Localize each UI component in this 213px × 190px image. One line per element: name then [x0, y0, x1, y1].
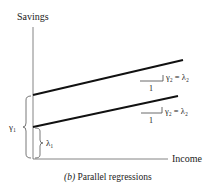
- upper-slope-run-label: 1: [149, 84, 153, 93]
- upper-slope-label: γ₂ = λ₂: [165, 72, 189, 82]
- caption-text: Parallel regressions: [75, 172, 152, 182]
- gamma1-label: γ₁: [8, 122, 16, 132]
- lower-slope-label: γ₂ = λ₂: [164, 106, 188, 116]
- parallel-regressions-diagram: Savings Income 1 γ₂ = λ₂ 1 γ₂ = λ₂ γ₁ λ₁…: [0, 0, 213, 190]
- x-axis-label: Income: [172, 153, 203, 164]
- upper-slope-triangle: [140, 75, 163, 81]
- upper-regression-line: [33, 60, 183, 95]
- lambda1-brace: [35, 128, 43, 158]
- lower-regression-line: [33, 96, 178, 127]
- gamma1-brace: [23, 96, 31, 158]
- caption-prefix: (b): [64, 172, 75, 183]
- lower-slope-triangle: [141, 107, 162, 113]
- lambda1-label: λ₁: [46, 138, 54, 148]
- y-axis-label: Savings: [17, 11, 49, 22]
- figure-caption: (b) Parallel regressions: [64, 172, 152, 183]
- lower-slope-run-label: 1: [149, 116, 153, 125]
